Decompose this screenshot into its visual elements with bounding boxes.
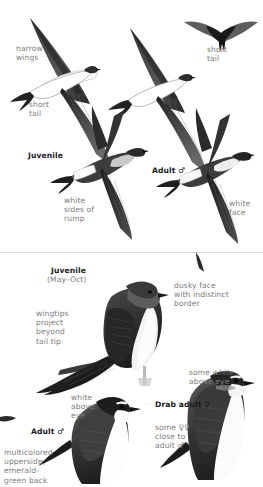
label-short-tail-left: short tail: [29, 100, 49, 118]
label-juvenile-perched: Juvenile: [51, 266, 86, 275]
label-some-females: some ♀♀ close to adult ♂: [155, 423, 190, 451]
label-juvenile-months: (May–Oct): [47, 275, 86, 284]
swallow-partial-left-edge: [0, 416, 16, 421]
field-guide-plate: narrow wings short tail short tail Juven…: [0, 0, 263, 487]
label-adult-male-flight: Adult ♂: [152, 166, 185, 175]
label-drab-adult-female: Drab adult ♀: [155, 400, 210, 409]
label-white-above-eye: white above eye: [71, 393, 95, 421]
label-some-white-above-eye: some white above eye: [189, 368, 234, 386]
label-wingtips-project: wingtips project beyond tail tip: [36, 309, 69, 346]
flight-panel-illustration: [0, 0, 263, 250]
label-juvenile-flight: Juvenile: [28, 151, 63, 160]
label-narrow-wings: narrow wings: [16, 44, 43, 62]
label-dusky-face: dusky face with indistinct border: [174, 281, 229, 309]
label-multicolored-upperside: multicolored upperside; emerald- green b…: [4, 448, 53, 485]
label-adult-male-perched: Adult ♂: [31, 427, 64, 436]
swallow-flight-upper-right: [108, 28, 206, 173]
label-white-face: white face: [229, 199, 250, 217]
swallow-flight-upper-left: [10, 18, 110, 165]
label-white-sides-of-rump: white sides of rump: [64, 196, 94, 224]
label-short-tail-top: short tail: [207, 45, 227, 63]
swallow-flight-adult-male: [156, 108, 255, 244]
swallow-partial-wing-top: [196, 252, 204, 272]
